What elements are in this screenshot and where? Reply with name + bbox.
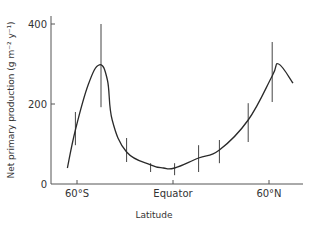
axes <box>51 16 303 184</box>
x-ticks: 60°SEquator60°N <box>65 180 282 199</box>
y-tick-label: 200 <box>28 99 47 110</box>
x-tick-label: 60°S <box>65 188 89 199</box>
error-bars <box>75 24 272 175</box>
y-tick-label: 400 <box>28 19 47 30</box>
x-tick-label: Equator <box>153 188 193 199</box>
chart: 0200400 60°SEquator60°N Latitude Net pri… <box>0 0 326 226</box>
x-tick-label: 60°N <box>256 188 281 199</box>
y-tick-label: 0 <box>41 179 47 190</box>
x-axis-label: Latitude <box>135 210 173 220</box>
y-axis-label: Net primary production (g m⁻² y⁻¹) <box>6 21 16 178</box>
